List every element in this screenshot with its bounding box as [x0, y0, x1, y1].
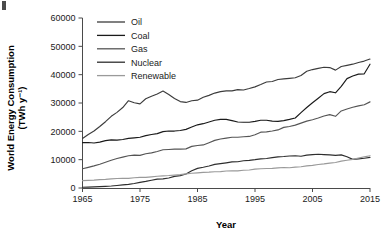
- y-tick-label: 0: [70, 183, 75, 193]
- x-tick-label: 1965: [72, 194, 92, 204]
- y-tick-label: 50000: [50, 42, 75, 52]
- x-tick-label: 1985: [187, 194, 207, 204]
- x-tick-label: 2005: [302, 194, 322, 204]
- series-line-gas: [83, 102, 371, 169]
- y-tick-label: 40000: [50, 70, 75, 80]
- chart-legend: OilCoalGasNuclearRenewable: [97, 17, 176, 81]
- x-tick-label: 1995: [245, 194, 265, 204]
- legend-label-oil: Oil: [131, 17, 142, 27]
- data-series-group: [83, 59, 371, 187]
- x-axis-ticks: 196519751985199520052015: [72, 188, 380, 204]
- y-tick-label: 60000: [50, 13, 75, 23]
- x-tick-label: 1975: [130, 194, 150, 204]
- y-tick-label: 10000: [50, 155, 75, 165]
- y-tick-label: 20000: [50, 127, 75, 137]
- y-tick-label: 30000: [50, 98, 75, 108]
- legend-label-gas: Gas: [131, 44, 148, 54]
- x-axis-title: Year: [216, 219, 236, 230]
- series-line-oil: [83, 59, 371, 138]
- y-axis-ticks: 0100002000030000400005000060000: [50, 13, 82, 193]
- corner-artifact: [2, 1, 6, 10]
- line-chart: World Energy Consumption (TWh y⁻¹) Year …: [0, 0, 389, 234]
- legend-label-renewable: Renewable: [131, 71, 176, 81]
- legend-label-nuclear: Nuclear: [131, 58, 162, 68]
- legend-label-coal: Coal: [131, 31, 150, 41]
- y-axis-title-line2: (TWh y⁻¹): [16, 87, 27, 130]
- y-axis-title-line1: World Energy Consumption: [5, 45, 16, 171]
- x-tick-label: 2015: [360, 194, 380, 204]
- chart-figure: World Energy Consumption (TWh y⁻¹) Year …: [0, 0, 389, 234]
- series-line-renewable: [83, 156, 371, 181]
